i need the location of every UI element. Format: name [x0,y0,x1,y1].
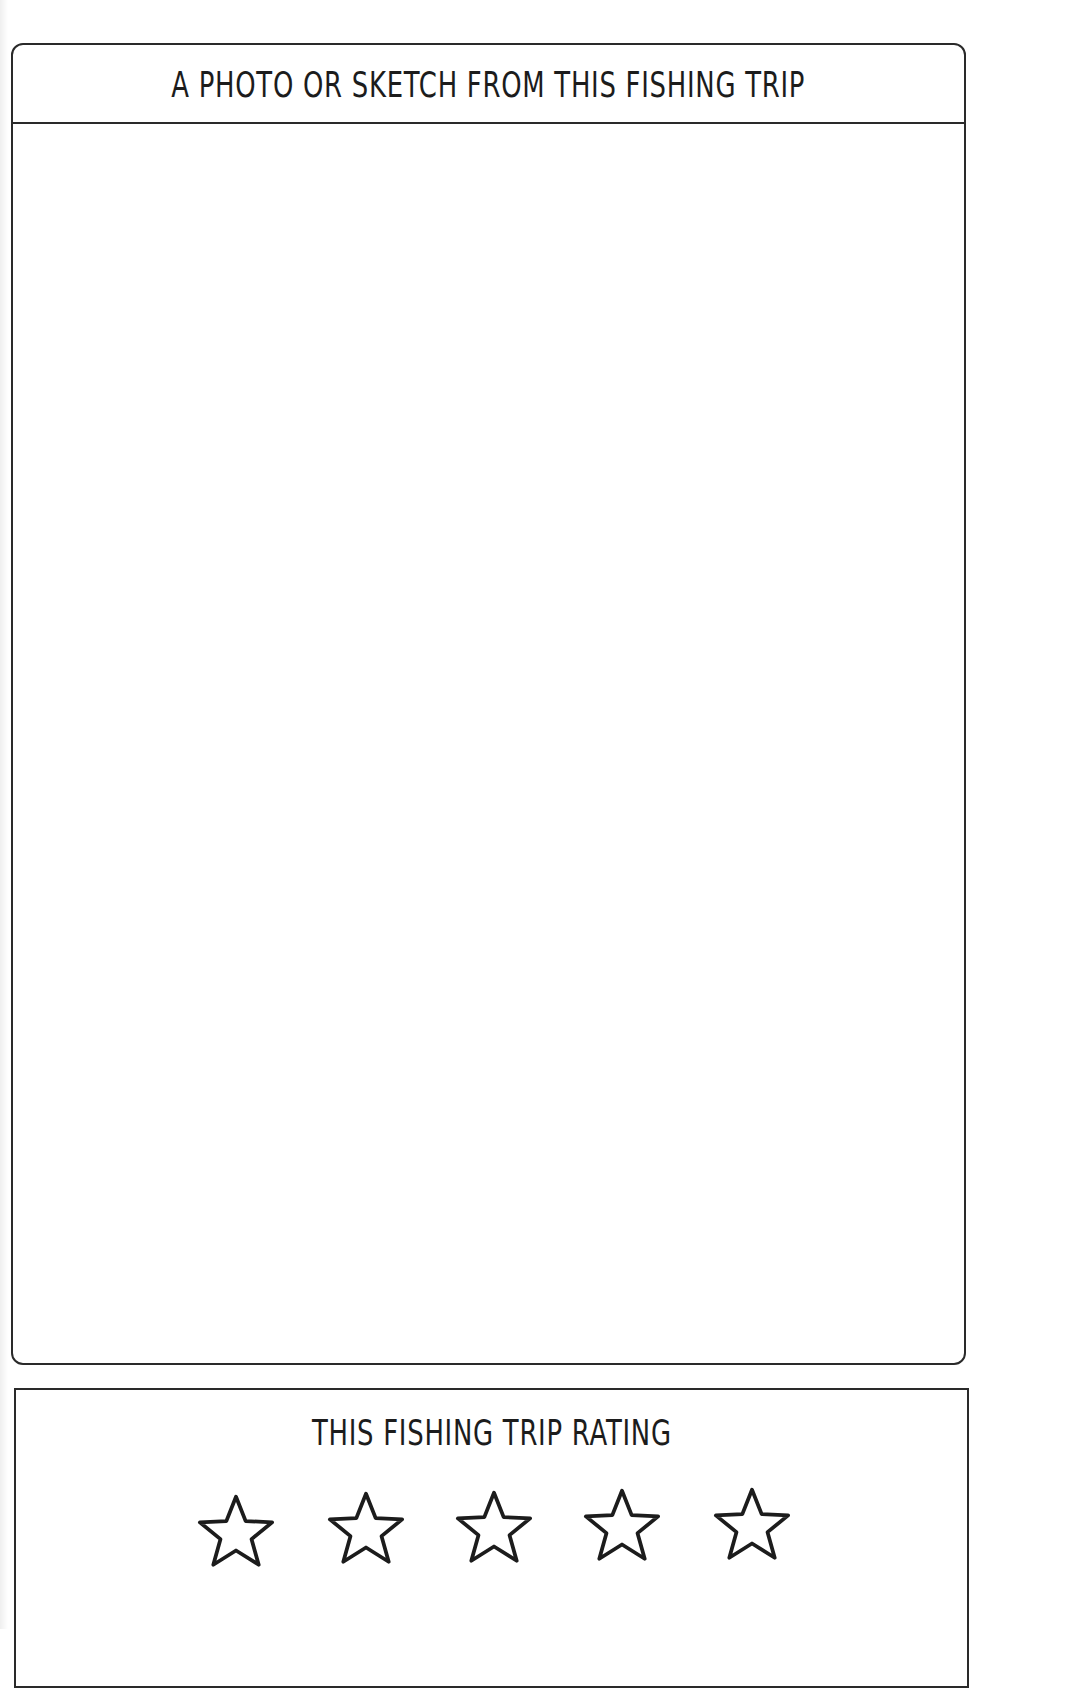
rating-title: THIS FISHING TRIP RATING [16,1412,967,1453]
star-4[interactable] [580,1484,664,1568]
page-edge-shadow [0,0,8,1629]
photo-drawing-area[interactable] [13,124,964,1363]
star-2[interactable] [324,1487,408,1571]
photo-box-header: A PHOTO OR SKETCH FROM THIS FISHING TRIP [13,45,964,124]
trip-rating-box: THIS FISHING TRIP RATING [14,1388,969,1688]
rating-title-text: THIS FISHING TRIP RATING [312,1412,672,1453]
star-outline-icon [710,1483,794,1567]
star-3[interactable] [452,1486,536,1570]
star-outline-icon [324,1487,408,1571]
star-outline-icon [194,1490,278,1574]
star-outline-icon [580,1484,664,1568]
star-outline-icon [452,1486,536,1570]
star-1[interactable] [194,1490,278,1574]
photo-sketch-box: A PHOTO OR SKETCH FROM THIS FISHING TRIP [11,43,966,1365]
star-5[interactable] [710,1483,794,1567]
photo-box-title: A PHOTO OR SKETCH FROM THIS FISHING TRIP [172,64,806,105]
star-rating [16,1486,967,1576]
